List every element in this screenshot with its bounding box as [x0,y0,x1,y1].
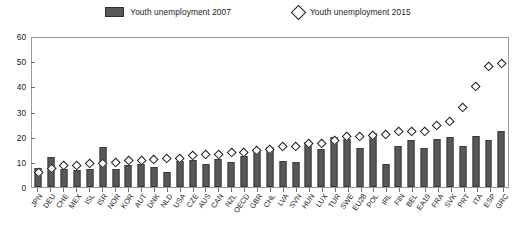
x-axis-tick-label: FRA [430,192,446,209]
x-axis-label-cell: JPN [31,191,44,229]
data-columns [32,38,508,187]
chart-column [379,38,392,187]
diamond-2015 [162,154,172,164]
bar-2007 [472,136,479,187]
x-axis-label-cell: AUT [134,191,147,229]
bar-2007 [241,156,248,187]
chart-column [405,38,418,187]
bar-2007 [164,172,171,187]
chart-column [431,38,444,187]
bar-2007 [485,140,492,187]
bar-2007 [138,164,145,187]
chart-column [148,38,161,187]
diamond-2015 [483,62,493,72]
chart-column [392,38,405,187]
chart-column [263,38,276,187]
diamond-2015 [432,120,442,130]
x-axis-label-cell: NLD [160,191,173,229]
diamond-2015 [316,139,326,149]
bar-2007 [421,148,428,187]
chart-column [122,38,135,187]
diamond-2015 [445,116,455,126]
bar-2007 [254,152,261,188]
bar-2007 [382,164,389,187]
bar-2007 [86,169,93,187]
x-axis-tick-label: USA [171,192,187,210]
bar-2007 [292,162,299,187]
x-axis-label-cell: FIN [393,191,406,229]
diamond-2015 [278,141,288,151]
chart-column [71,38,84,187]
bar-2007 [215,159,222,187]
diamond-2015 [226,148,236,158]
legend-diamond-swatch-icon [291,4,307,20]
x-axis-label-cell: LUX [315,191,328,229]
y-axis-tick-label: 30 [17,108,26,118]
chart-column [173,38,186,187]
x-axis-label-cell: BEL [406,191,419,229]
x-axis-label-cell: HUN [302,191,315,229]
diamond-2015 [406,127,416,137]
x-axis-label-cell: DEU [44,191,57,229]
chart-column [341,38,354,187]
bar-2007 [446,137,453,187]
chart-column [469,38,482,187]
diamond-2015 [110,157,120,167]
x-axis-tick-label: HUN [300,192,317,210]
chart-column [212,38,225,187]
chart-column [83,38,96,187]
diamond-2015 [470,82,480,92]
chart-column [45,38,58,187]
x-axis-label-cell: GRC [496,191,509,229]
plot-area [31,37,509,188]
bar-2007 [369,133,376,187]
diamond-2015 [496,58,506,68]
x-axis-label-cell: DNK [147,191,160,229]
x-axis-label-cell: AUS [199,191,212,229]
x-axis-tick-label: LUX [313,192,329,209]
chart-column [58,38,71,187]
x-axis-tick-label: SVK [442,192,458,209]
chart-column [302,38,315,187]
chart-root: Youth unemployment 2007 Youth unemployme… [0,0,516,229]
x-axis-label-cell: ESP [483,191,496,229]
y-axis-tick-label: 60 [17,32,26,42]
chart-column [186,38,199,187]
x-axis-label-cell: ISL [83,191,96,229]
bar-2007 [395,146,402,187]
bar-2007 [125,165,132,187]
chart-column [199,38,212,187]
x-axis-tick-label: PRT [455,192,471,209]
x-axis-label-cell: NOR [109,191,122,229]
bar-2007 [344,139,351,187]
chart-column [482,38,495,187]
diamond-2015 [213,149,223,159]
x-axis-label-cell: LVA [277,191,290,229]
x-axis-label-cell: POL [367,191,380,229]
diamond-2015 [290,141,300,151]
chart-column [289,38,302,187]
x-axis-tick-label: MEX [67,192,84,210]
y-axis-tick-mark [31,163,35,164]
x-axis-label-cell: USA [173,191,186,229]
y-axis-tick-mark [31,138,35,139]
x-axis-label-cell: ITA [470,191,483,229]
bar-2007 [459,146,466,187]
bar-2007 [112,169,119,187]
x-axis-label-cell: CAN [212,191,225,229]
bar-2007 [279,161,286,187]
bar-2007 [151,167,158,187]
x-axis-tick-label: IRL [380,192,394,207]
bar-2007 [408,140,415,187]
bar-2007 [176,161,183,187]
chart-column [161,38,174,187]
x-axis-label-cell: ISR [96,191,109,229]
chart-column [96,38,109,187]
legend-item-2007: Youth unemployment 2007 [105,7,231,17]
x-axis-label-cell: GBR [251,191,264,229]
bar-2007 [74,170,81,187]
bar-2007 [61,169,68,187]
x-axis-label-cell: TUR [328,191,341,229]
diamond-2015 [188,150,198,160]
diamond-2015 [200,149,210,159]
